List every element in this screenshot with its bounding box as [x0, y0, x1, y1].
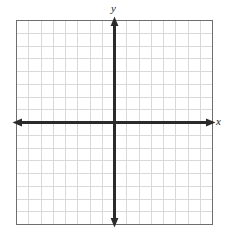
x-axis-arrow-right: [206, 119, 216, 127]
x-axis-label: x: [216, 116, 221, 127]
y-axis-label: y: [111, 3, 116, 14]
x-axis-arrow-left: [13, 119, 23, 127]
coordinate-graph-figure: y x: [0, 0, 228, 239]
y-axis-arrow-up: [111, 17, 119, 27]
y-axis-arrow-down: [111, 218, 119, 228]
coordinate-plane: [0, 0, 228, 239]
